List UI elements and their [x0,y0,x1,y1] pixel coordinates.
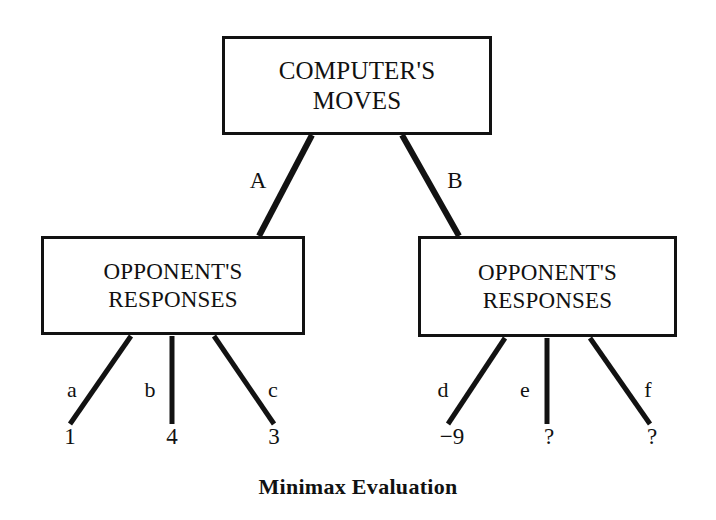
edge-label-c-lowercase: c [268,379,278,401]
edge-label-a-lowercase: a [67,379,77,401]
leaf-value: 1 [64,425,76,448]
edge-line-f-lower [590,338,650,424]
edge-label-b-uppercase: B [447,169,462,192]
edge-label-d-lowercase: d [438,379,449,401]
edge-label-f-lowercase: f [644,379,651,401]
edge-line-a [259,135,312,236]
leaf-value: ? [544,425,554,448]
node-opponents-responses-right-line2: RESPONSES [483,287,613,314]
leaf-value: ? [647,425,657,448]
minimax-diagram-page: COMPUTER'S MOVES OPPONENT'S RESPONSES OP… [0,0,716,520]
node-computers-moves-line2: MOVES [313,86,402,116]
node-computers-moves-line1: COMPUTER'S [279,56,436,86]
node-opponents-responses-right-line1: OPPONENT'S [478,259,617,286]
leaf-value: 4 [166,425,178,448]
leaf-value: 3 [268,425,280,448]
edge-line-a-lower [70,336,131,424]
edge-label-a-uppercase: A [250,169,267,192]
node-opponents-responses-right: OPPONENT'S RESPONSES [418,236,677,337]
leaf-value: −9 [440,425,464,448]
edge-line-d-lower [448,338,505,424]
node-opponents-responses-left: OPPONENT'S RESPONSES [41,236,305,335]
edge-label-b-lowercase: b [145,379,156,401]
figure-caption: Minimax Evaluation [0,474,716,500]
edge-line-c-lower [214,336,274,424]
node-computers-moves: COMPUTER'S MOVES [222,36,492,135]
node-opponents-responses-left-line1: OPPONENT'S [103,258,242,285]
node-opponents-responses-left-line2: RESPONSES [108,286,238,313]
edge-label-e-lowercase: e [520,379,530,401]
